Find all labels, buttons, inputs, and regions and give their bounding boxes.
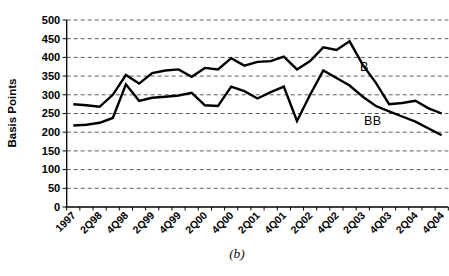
x-tick-label: 2Q99 (130, 209, 157, 236)
y-tick-label: 50 (48, 182, 60, 194)
series-line-B (73, 41, 441, 113)
x-tick-label: 2Q02 (288, 209, 315, 236)
y-tick-label: 450 (42, 33, 60, 45)
y-tick-label: 350 (42, 70, 60, 82)
x-tick-label: 4Q00 (209, 209, 236, 236)
figure-panel-b: 05010015020025030035040045050019972Q984Q… (0, 0, 449, 276)
y-tick-label: 0 (54, 201, 60, 213)
x-tick-label: 2Q98 (77, 209, 104, 236)
x-tick-label: 2Q01 (235, 209, 262, 236)
x-tick-label: 4Q99 (156, 209, 183, 236)
series-label-BB: BB (364, 114, 382, 128)
x-tick-label: 2Q03 (341, 209, 368, 236)
x-tick-label: 4Q03 (367, 209, 394, 236)
series-label-B: B (360, 60, 369, 74)
x-tick-label: 2Q00 (183, 209, 210, 236)
y-tick-label: 400 (42, 51, 60, 63)
figure-caption: (b) (187, 246, 287, 262)
y-tick-label: 150 (42, 145, 60, 157)
spread-line-chart: 05010015020025030035040045050019972Q984Q… (0, 0, 449, 276)
series-line-BB (73, 71, 441, 136)
y-tick-label: 250 (42, 107, 60, 119)
x-tick-label: 4Q98 (104, 209, 131, 236)
x-tick-label: 4Q02 (314, 209, 341, 236)
x-tick-label: 2Q04 (393, 209, 420, 236)
y-tick-label: 200 (42, 126, 60, 138)
x-tick-label: 4Q01 (262, 209, 289, 236)
y-axis-title: Basis Points (6, 58, 22, 168)
y-tick-label: 300 (42, 89, 60, 101)
y-tick-label: 500 (42, 14, 60, 26)
y-tick-label: 100 (42, 163, 60, 175)
x-tick-label: 4Q04 (419, 209, 446, 236)
